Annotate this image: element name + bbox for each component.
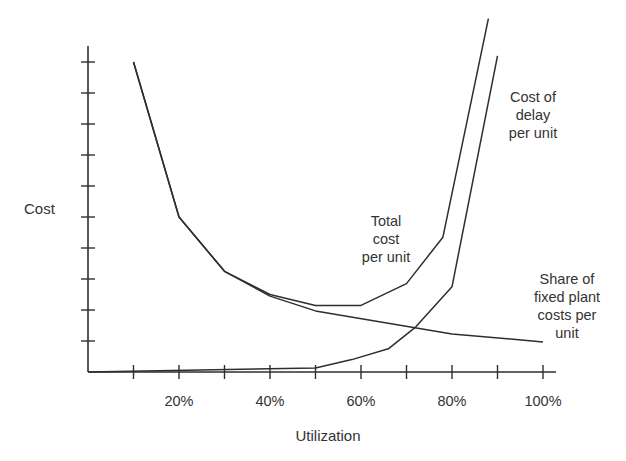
annotation-line: Share of <box>524 270 610 288</box>
annotation-line: unit <box>524 324 610 342</box>
x-tick-label: 20% <box>164 393 193 409</box>
annotation-line: Total <box>354 212 418 230</box>
x-tick-label: 40% <box>255 393 284 409</box>
x-tick-label: 60% <box>346 393 375 409</box>
axes <box>81 46 556 379</box>
chart-canvas <box>0 0 626 461</box>
annotation-line: fixed plant <box>524 288 610 306</box>
annotation-total-cost: Total cost per unit <box>354 212 418 266</box>
annotation-line: per unit <box>354 248 418 266</box>
annotation-line: costs per <box>524 306 610 324</box>
annotation-fixed-plant-costs: Share of fixed plant costs per unit <box>524 270 610 342</box>
annotation-line: per unit <box>502 124 564 142</box>
series-line-share-of-fixed-plant-costs-per-unit <box>134 62 544 342</box>
series-line-cost-of-delay-per-unit <box>88 56 498 372</box>
x-axis-label: Utilization <box>0 427 626 444</box>
annotation-line: cost <box>354 230 418 248</box>
y-axis-label: Cost <box>24 200 55 217</box>
annotation-line: Cost of <box>502 88 564 106</box>
annotation-cost-of-delay: Cost of delay per unit <box>502 88 564 142</box>
series-lines <box>88 19 543 372</box>
annotation-line: delay <box>502 106 564 124</box>
series-line-total-cost-per-unit <box>134 19 489 306</box>
x-tick-label: 100% <box>524 393 561 409</box>
x-tick-label: 80% <box>437 393 466 409</box>
